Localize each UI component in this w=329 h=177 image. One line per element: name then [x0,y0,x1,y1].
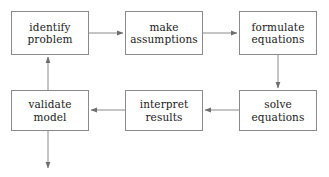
node-formulate-equations[interactable]: formulate equations [239,11,317,55]
node-interpret-results-line2: results [145,111,182,124]
node-validate-model[interactable]: validate model [11,90,89,131]
node-make-assumptions[interactable]: make assumptions [125,11,203,55]
node-make-assumptions-line2: assumptions [130,33,198,46]
node-solve-equations-line2: equations [252,111,305,124]
node-formulate-equations-line2: equations [252,33,305,46]
node-identify-problem-line2: problem [27,33,72,46]
node-solve-equations[interactable]: solve equations [239,90,317,131]
node-interpret-results[interactable]: interpret results [125,90,203,131]
node-identify-problem[interactable]: identify problem [11,11,89,55]
node-formulate-equations-line1: formulate [252,21,305,34]
node-solve-equations-line1: solve [264,98,292,111]
node-validate-model-line2: model [33,111,66,124]
node-make-assumptions-line1: make [149,21,178,34]
node-identify-problem-line1: identify [29,21,70,34]
flowchart-canvas: identify problem make assumptions formul… [0,0,329,177]
node-validate-model-line1: validate [28,98,71,111]
node-interpret-results-line1: interpret [140,98,189,111]
